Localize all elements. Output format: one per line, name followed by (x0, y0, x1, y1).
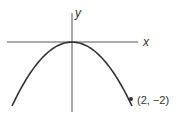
point-marker (129, 97, 133, 101)
point-label: (2, −2) (137, 94, 169, 106)
x-axis-label: x (142, 35, 150, 49)
y-axis-label: y (74, 6, 82, 20)
parabola-graph: x y (2, −2) (0, 0, 176, 119)
